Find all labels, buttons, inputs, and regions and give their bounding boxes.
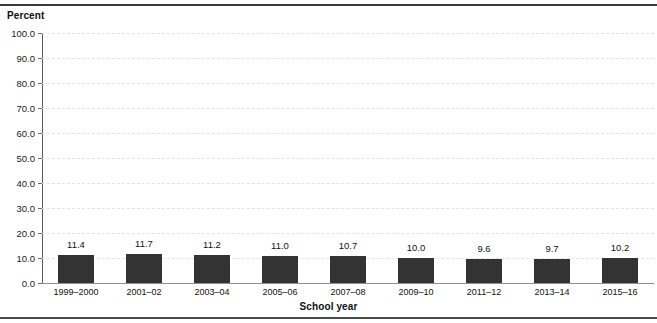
gridline (42, 83, 654, 85)
gridline (42, 33, 654, 35)
x-axis-tick-label: 2015–16 (602, 287, 637, 297)
bar (126, 254, 162, 283)
y-axis-tick-mark (38, 258, 42, 259)
y-axis-tick-mark (38, 158, 42, 159)
x-axis-tick-label: 1999–2000 (53, 287, 98, 297)
bottom-divider-rule (0, 317, 657, 319)
bar (58, 255, 94, 284)
bar-value-label: 10.0 (407, 242, 426, 253)
x-axis-title: School year (0, 301, 657, 312)
y-axis-tick-label: 30.0 (17, 203, 36, 214)
bar-value-label: 9.7 (545, 243, 558, 254)
y-axis-tick-label: 70.0 (17, 103, 36, 114)
bar (398, 258, 434, 283)
gridline (42, 158, 654, 160)
x-axis-line (42, 283, 654, 284)
top-divider-rule (0, 4, 657, 6)
y-axis-tick-label: 50.0 (17, 153, 36, 164)
y-axis-tick-mark (38, 58, 42, 59)
x-axis-tick-label: 2007–08 (330, 287, 365, 297)
y-axis-tick-label: 0.0 (22, 278, 35, 289)
bar (194, 255, 230, 283)
bar-value-label: 11.0 (271, 240, 289, 251)
y-axis-tick-mark (38, 83, 42, 84)
y-axis-tick-mark (38, 183, 42, 184)
gridline (42, 133, 654, 135)
bar-value-label: 10.7 (339, 240, 358, 251)
bar (262, 256, 298, 284)
y-axis-tick-mark (38, 208, 42, 209)
gridline (42, 208, 654, 210)
y-axis-tick-label: 40.0 (17, 178, 36, 189)
gridline (42, 183, 654, 185)
y-axis-tick-mark (38, 108, 42, 109)
chart-figure: Percent 0.010.020.030.040.050.060.070.08… (0, 0, 657, 323)
gridline (42, 233, 654, 235)
plot-area: 0.010.020.030.040.050.060.070.080.090.01… (42, 33, 654, 283)
y-axis-tick-mark (38, 233, 42, 234)
x-axis-tick-label: 2003–04 (194, 287, 229, 297)
y-axis-tick-label: 90.0 (17, 53, 36, 64)
x-axis-tick-label: 2001–02 (126, 287, 161, 297)
x-axis-tick-label: 2009–10 (398, 287, 433, 297)
y-axis-title: Percent (7, 10, 44, 21)
y-axis-tick-label: 100.0 (11, 28, 35, 39)
bar (602, 258, 638, 284)
y-axis-tick-label: 20.0 (17, 228, 36, 239)
bar-value-label: 11.4 (67, 239, 85, 250)
y-axis-tick-label: 80.0 (17, 78, 36, 89)
y-axis-tick-mark (38, 283, 42, 284)
bar-value-label: 9.6 (477, 243, 490, 254)
x-axis-tick-label: 2005–06 (262, 287, 297, 297)
bar (466, 259, 502, 283)
y-axis-tick-mark (38, 33, 42, 34)
bar-value-label: 10.2 (611, 242, 630, 253)
y-axis-tick-mark (38, 133, 42, 134)
gridline (42, 108, 654, 110)
y-axis-tick-label: 60.0 (17, 128, 36, 139)
bar-value-label: 11.2 (203, 239, 221, 250)
bar (534, 259, 570, 283)
bar-value-label: 11.7 (135, 238, 153, 249)
x-axis-tick-label: 2013–14 (534, 287, 569, 297)
gridline (42, 58, 654, 60)
y-axis-tick-label: 10.0 (17, 253, 36, 264)
x-axis-tick-label: 2011–12 (467, 287, 501, 297)
bar (330, 256, 366, 283)
